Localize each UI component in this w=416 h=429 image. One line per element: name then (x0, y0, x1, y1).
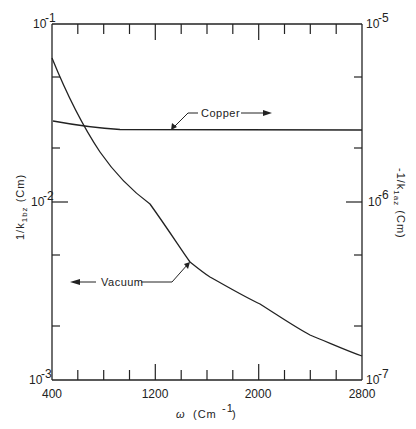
chart: Copper Vacuum 400 1200 2000 2800 ω (Cm -… (0, 0, 416, 429)
y-left-title-main: 1/k (14, 222, 26, 240)
x-axis-ticks-top (78, 24, 336, 40)
y-right-tick-bot-exp: -7 (378, 367, 389, 381)
y-left-tick-mid-exp: -2 (43, 189, 54, 203)
y-left-tick-bot-exp: -3 (41, 367, 52, 381)
svg-text:1/k1bz (Cm): 1/k1bz (Cm) (14, 174, 29, 240)
vacuum-label: Vacuum (101, 276, 144, 288)
y-right-tick-top-exp: -5 (378, 11, 389, 25)
vacuum-curve (52, 58, 362, 356)
x-tick-2000: 2000 (245, 387, 272, 401)
x-axis-ticks-bottom (78, 364, 336, 380)
x-tick-400: 400 (42, 387, 62, 401)
y-right-axis-title: -1/k1az (Cm) (392, 168, 407, 239)
copper-curve (53, 121, 362, 130)
y-right-tick-mid-exp: -6 (378, 188, 389, 202)
y-left-title-unit: (Cm) (14, 174, 26, 207)
y-right-tick-labels: 10 -5 10 -6 10 -7 (366, 11, 389, 387)
x-axis-title: ω (Cm -1 ) (176, 402, 237, 420)
y-left-axis-title: 1/k1bz (Cm) (14, 174, 29, 240)
x-unit: (Cm (193, 408, 217, 420)
y-axis-right-ticks (346, 77, 362, 326)
omega-symbol: ω (176, 408, 186, 420)
copper-label: Copper (201, 107, 240, 119)
vacuum-annotation: Vacuum (70, 262, 190, 288)
x-tick-1200: 1200 (142, 387, 169, 401)
y-left-tick-top-exp: -1 (45, 11, 56, 25)
y-right-title-sub: 1az (392, 190, 401, 206)
svg-text:-1/k1az (Cm): -1/k1az (Cm) (392, 168, 407, 239)
copper-annotation: Copper (171, 107, 272, 130)
y-right-title-unit: (Cm) (395, 206, 407, 239)
y-right-title-main: -1/k (395, 168, 407, 190)
y-left-title-sub: 1bz (20, 206, 29, 222)
x-tick-labels: 400 1200 2000 2800 (42, 387, 376, 401)
plot-frame (52, 24, 362, 380)
x-tick-2800: 2800 (349, 387, 376, 401)
x-unit-close: ) (232, 408, 237, 420)
y-axis-left-ticks (52, 77, 68, 326)
